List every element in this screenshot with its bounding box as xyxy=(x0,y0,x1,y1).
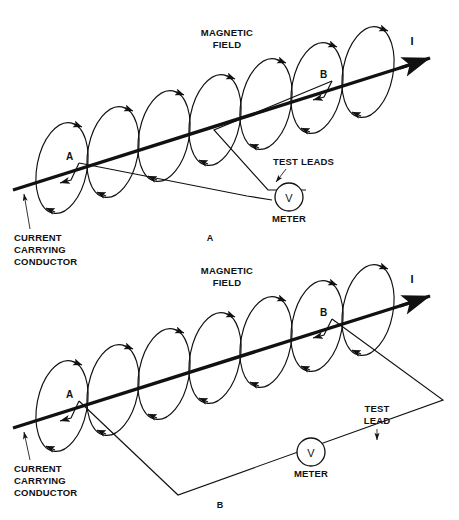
conductor-label-b-line1: CURRENT xyxy=(14,463,62,474)
panel-a-caption: A xyxy=(207,233,214,243)
conductor-line-a xyxy=(13,61,422,190)
conductor-leader-b xyxy=(24,432,30,460)
conductor-label-a-line2: CARRYING xyxy=(14,244,66,255)
point-b-label-b: B xyxy=(320,307,327,318)
conductor-label-b-line2: CARRYING xyxy=(14,475,66,486)
panel-b: A B V METER TEST LEAD MAGNETIC FIELD I C… xyxy=(13,260,443,510)
current-arrow-b xyxy=(400,296,430,306)
magnetic-field-loops-b xyxy=(29,260,402,456)
meter-symbol: V xyxy=(307,447,315,459)
meter-a: V xyxy=(275,183,303,211)
magnetic-field-label-a-line2: FIELD xyxy=(213,39,241,50)
point-a-label: A xyxy=(66,151,73,162)
meter-label-a: METER xyxy=(272,213,306,224)
magnetic-field-loops-a xyxy=(29,22,402,218)
current-symbol-b: I xyxy=(410,273,413,285)
point-a-label-b: A xyxy=(66,389,73,400)
test-lead-label-b-line1: TEST xyxy=(364,403,389,414)
panel-b-caption: B xyxy=(217,500,224,510)
conductor-label-a-line3: CONDUCTOR xyxy=(14,256,77,267)
conductor-label-a-line1: CURRENT xyxy=(14,232,62,243)
magnetic-field-label-b-line1: MAGNETIC xyxy=(201,265,253,276)
magnetic-field-label-a-line1: MAGNETIC xyxy=(201,27,253,38)
current-symbol-a: I xyxy=(410,35,413,47)
test-leads-leader-a xyxy=(276,169,286,182)
conductor-leader-a xyxy=(24,194,30,229)
test-lead-label-b-line2: LEAD xyxy=(364,415,391,426)
point-b-label: B xyxy=(320,69,327,80)
magnetic-field-diagram: A B V METER TEST LEADS MAGNETIC FIELD I … xyxy=(0,0,459,520)
figure-root: A B V METER TEST LEADS MAGNETIC FIELD I … xyxy=(0,0,459,520)
meter-symbol: V xyxy=(285,192,293,204)
meter-label-b: METER xyxy=(294,468,328,479)
magnetic-field-label-b-line2: FIELD xyxy=(213,277,241,288)
conductor-line-b xyxy=(13,299,422,428)
panel-a: A B V METER TEST LEADS MAGNETIC FIELD I … xyxy=(13,22,430,267)
meter-b: V xyxy=(297,438,325,466)
conductor-label-b-line3: CONDUCTOR xyxy=(14,487,77,498)
current-arrow-a xyxy=(400,58,430,68)
test-leads-label-a: TEST LEADS xyxy=(273,156,334,167)
test-leads-a xyxy=(79,81,332,200)
